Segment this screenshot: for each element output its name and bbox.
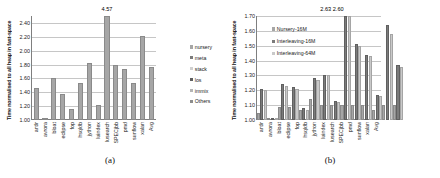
- bar: [292, 87, 295, 120]
- panel-b-legend: Nursery-16MInterleaving-16MInterleaving-…: [272, 26, 315, 63]
- legend-label: Nursery-16M: [277, 26, 307, 32]
- figure-two-panel-bar-charts: Time normalised to all heap in fast-spac…: [0, 0, 440, 178]
- x-tick-cell: SPECjbb: [336, 121, 345, 153]
- x-tick-label: Avg: [373, 122, 379, 131]
- x-tick-label: xalan: [139, 122, 145, 135]
- y-tick-label: 2.20: [20, 34, 31, 40]
- x-tick-label: bloat: [51, 122, 57, 134]
- legend-item: Interleaving-16M: [272, 38, 315, 44]
- x-tick-label: jython: [311, 122, 317, 136]
- bar: [69, 109, 74, 120]
- bar: [267, 118, 270, 120]
- bar-group: [129, 16, 138, 120]
- panel-b-subcaption: (b): [220, 155, 440, 165]
- bar: [96, 105, 101, 120]
- legend-item: nursery: [190, 44, 212, 50]
- bar: [320, 105, 323, 120]
- x-tick-cell: hsqldb: [76, 121, 85, 153]
- panel-b-y-tick-labels: 1.001.101.201.301.401.501.601.70: [237, 16, 255, 120]
- bar: [34, 88, 39, 120]
- legend-swatch-icon: [272, 40, 275, 43]
- bar: [313, 78, 316, 120]
- panel-a: Time normalised to all heap in fast-spac…: [0, 0, 220, 178]
- bar: [131, 83, 136, 120]
- bar-group: [49, 16, 58, 120]
- x-tick-cell: hsqldb: [301, 121, 310, 153]
- bar: [281, 84, 284, 120]
- bar: [396, 65, 399, 120]
- x-tick-label: avrora: [267, 122, 273, 137]
- x-tick-label: luindex: [320, 122, 326, 139]
- y-tick-label: 1.10: [245, 102, 256, 108]
- bar: [42, 118, 47, 120]
- y-tick-label: 1.50: [245, 43, 256, 49]
- x-tick-label: antlr: [33, 122, 39, 132]
- x-tick-cell: antlr: [32, 121, 41, 153]
- legend-swatch-icon: [190, 100, 193, 103]
- y-tick-label: 1.60: [20, 75, 31, 81]
- legend-item: meta: [190, 55, 212, 61]
- bar-group: [58, 16, 67, 120]
- bar: [278, 107, 281, 120]
- legend-swatch-icon: [190, 45, 193, 48]
- clipped-value-annotation: 4.57: [102, 6, 113, 12]
- y-tick-label: 1.40: [20, 89, 31, 95]
- bar: [257, 113, 260, 120]
- bar: [344, 16, 347, 120]
- x-tick-cell: SPECjbb: [111, 121, 120, 153]
- x-tick-cell: eclipse: [283, 121, 292, 153]
- panel-a-legend: nurserymetastacklosimmixOthers: [190, 44, 212, 104]
- bar-group: [257, 16, 267, 120]
- legend-label: los: [195, 77, 202, 83]
- x-tick-cell: jython: [310, 121, 319, 153]
- legend-swatch-icon: [190, 78, 193, 81]
- bar: [299, 110, 302, 120]
- panel-b: Time normalised to all heap in fast-spac…: [220, 0, 440, 178]
- panel-a-bar-group-container: [32, 16, 156, 120]
- bar-group: [103, 16, 112, 120]
- panel-a-y-tick-labels: 1.001.201.401.601.802.002.202.40: [12, 16, 30, 120]
- bar: [355, 44, 358, 120]
- legend-label: immix: [195, 88, 209, 94]
- x-tick-label: hsqldb: [77, 122, 83, 138]
- bar: [400, 67, 403, 120]
- x-tick-label: SPECjbb: [338, 122, 344, 144]
- bar-group: [67, 16, 76, 120]
- legend-label: Interleaving-64M: [277, 50, 316, 56]
- x-tick-label: fop: [294, 122, 300, 129]
- x-tick-cell: avrora: [266, 121, 275, 153]
- bar-group: [361, 16, 371, 120]
- bar-group: [85, 16, 94, 120]
- x-tick-cell: sunflow: [354, 121, 363, 153]
- bar-group: [351, 16, 361, 120]
- x-tick-cell: luindex: [319, 121, 328, 153]
- bar-group: [382, 16, 392, 120]
- x-tick-label: sunflow: [356, 122, 362, 140]
- bar: [334, 101, 337, 120]
- x-tick-label: luindex: [95, 122, 101, 139]
- legend-item: stack: [190, 66, 212, 72]
- x-tick-cell: Avg: [147, 121, 156, 153]
- bar: [309, 99, 312, 120]
- panel-a-x-tick-labels: antlravrorabloateclipsefophsqldbjythonlu…: [32, 121, 156, 153]
- bar: [393, 105, 396, 120]
- bar: [365, 55, 368, 120]
- bar: [78, 83, 83, 120]
- x-tick-label: pmd: [122, 122, 128, 132]
- panel-b-x-tick-labels: antlravrorabloateclipsefophsqldbjythonlu…: [257, 121, 381, 153]
- bar: [330, 105, 333, 120]
- x-tick-cell: jython: [85, 121, 94, 153]
- legend-item: Nursery-16M: [272, 26, 315, 32]
- bar: [60, 94, 65, 120]
- bar: [149, 67, 154, 120]
- bar: [87, 63, 92, 120]
- legend-label: meta: [195, 55, 207, 61]
- bar: [302, 108, 305, 120]
- bar: [382, 105, 385, 120]
- x-tick-label: pmd: [347, 122, 353, 132]
- x-tick-cell: sunflow: [129, 121, 138, 153]
- x-tick-label: eclipse: [60, 122, 66, 139]
- y-tick-label: 1.00: [20, 117, 31, 123]
- x-tick-label: avrora: [42, 122, 48, 137]
- bar: [361, 105, 364, 120]
